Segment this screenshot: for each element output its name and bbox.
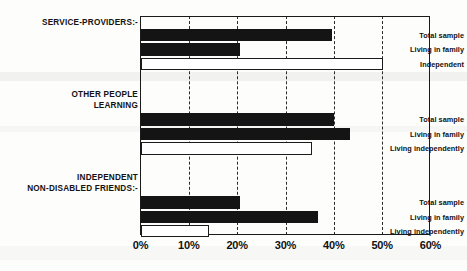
x-tick-label-30pct: 30% [275,239,296,251]
bar-g2-3 [141,142,312,155]
bar-label-g3-3: Living independently [329,227,467,236]
bar-label-g1-2: Living in family [329,45,467,54]
x-tick-label-0pct: 0% [133,239,149,251]
x-tick-label-40pct: 40% [323,239,344,251]
bar-g3-2 [141,211,318,224]
bar-g3-3 [141,225,209,238]
bar-g1-1 [141,29,332,42]
x-tick-label-20pct: 20% [226,239,247,251]
group-title-other-people-learning: OTHER PEOPLE LEARNING [0,90,138,111]
x-tick-label-60pct: 60% [420,239,441,251]
bar-g1-2 [141,43,240,56]
group-title-independent-non-disabled-friends: INDEPENDENT NON-DISABLED FRIENDS:- [0,173,138,194]
bar-g1-3 [141,58,383,71]
bar-g2-2 [141,128,350,141]
bar-label-g1-1: Total sample [329,31,467,40]
bar-label-g2-3: Living independently [329,144,467,153]
x-tick-label-50pct: 50% [371,239,392,251]
bar-label-g3-2: Living in family [329,213,467,222]
x-tick-label-10pct: 10% [178,239,199,251]
bar-g3-1 [141,196,240,209]
horizontal-bar-chart: SERVICE-PROVIDERS:- OTHER PEOPLE LEARNIN… [0,0,467,271]
bar-label-g3-1: Total sample [329,198,467,207]
bar-label-g2-1: Total sample [329,115,467,124]
bar-g2-1 [141,113,334,126]
group-title-service-providers: SERVICE-PROVIDERS:- [0,18,138,29]
